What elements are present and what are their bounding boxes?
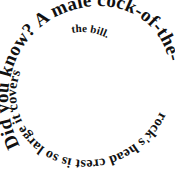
- spiral-segment-2-text: rock's head crest is so large it covers: [4, 67, 171, 171]
- spiral-segment-3-text: the bill.: [71, 22, 112, 40]
- spiral-text-canvas: Did you know? A male cock-of-the- rock's…: [0, 0, 175, 171]
- spiral-text-image: Did you know? A male cock-of-the- rock's…: [0, 0, 175, 171]
- spiral-segment-2: rock's head crest is so large it covers: [4, 67, 171, 171]
- spiral-segment-3: the bill.: [71, 22, 112, 40]
